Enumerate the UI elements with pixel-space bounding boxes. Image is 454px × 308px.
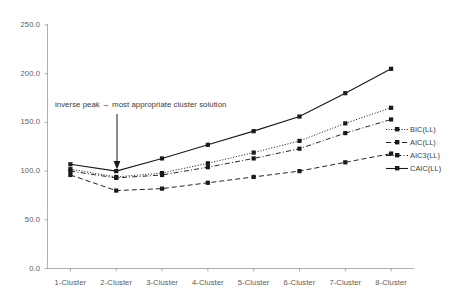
data-point-marker bbox=[68, 173, 72, 177]
data-point-marker bbox=[297, 139, 301, 143]
data-point-marker bbox=[206, 181, 210, 185]
x-tick-label: 1-Cluster bbox=[46, 278, 94, 287]
y-tick-label: 250.0 bbox=[4, 20, 40, 29]
legend-label-aic3: AIC3(LL) bbox=[408, 151, 440, 160]
legend-label-bic: BIC(LL) bbox=[408, 125, 436, 134]
data-point-marker bbox=[114, 176, 118, 180]
y-tick-label: 100.0 bbox=[4, 166, 40, 175]
data-point-marker bbox=[389, 106, 393, 110]
data-point-marker bbox=[343, 91, 347, 95]
x-tick-label: 2-Cluster bbox=[92, 278, 140, 287]
chart-legend: BIC(LL) AIC(LL) AIC3(LL) bbox=[386, 123, 452, 175]
data-point-marker bbox=[389, 67, 393, 71]
data-point-marker bbox=[343, 121, 347, 125]
legend-item-caic[interactable]: CAIC(LL) bbox=[386, 162, 452, 175]
x-tick-label: 3-Cluster bbox=[138, 278, 186, 287]
y-tick-label: 50.0 bbox=[4, 215, 40, 224]
data-point-marker bbox=[206, 161, 210, 165]
data-point-marker bbox=[160, 156, 164, 160]
data-point-marker bbox=[114, 188, 118, 192]
data-point-marker bbox=[160, 173, 164, 177]
legend-label-aic: AIC(LL) bbox=[408, 138, 436, 147]
data-point-marker bbox=[114, 169, 118, 173]
legend-swatch-dashed-icon bbox=[386, 137, 408, 148]
data-point-marker bbox=[297, 114, 301, 118]
legend-swatch-dotted-icon bbox=[386, 124, 408, 135]
data-point-marker bbox=[160, 187, 164, 191]
data-point-marker bbox=[68, 162, 72, 166]
annotation-arrow bbox=[114, 114, 121, 170]
x-tick-label: 8-Cluster bbox=[367, 278, 415, 287]
data-point-marker bbox=[252, 156, 256, 160]
legend-item-aic3[interactable]: AIC3(LL) bbox=[386, 149, 452, 162]
legend-item-bic[interactable]: BIC(LL) bbox=[386, 123, 452, 136]
y-tick-label: 200.0 bbox=[4, 69, 40, 78]
y-tick-label: 150.0 bbox=[4, 117, 40, 126]
data-point-marker bbox=[252, 150, 256, 154]
x-tick-label: 6-Cluster bbox=[275, 278, 323, 287]
data-point-marker bbox=[343, 131, 347, 135]
data-point-marker bbox=[343, 160, 347, 164]
data-point-marker bbox=[252, 175, 256, 179]
x-tick-label: 4-Cluster bbox=[184, 278, 232, 287]
y-tick-label: 0.0 bbox=[4, 264, 40, 273]
data-point-marker bbox=[206, 165, 210, 169]
data-point-marker bbox=[252, 129, 256, 133]
data-point-marker bbox=[206, 143, 210, 147]
legend-swatch-dashdot-icon bbox=[386, 150, 408, 161]
chart-container: 0.050.0100.0150.0200.0250.0 1-Cluster2-C… bbox=[0, 0, 454, 308]
x-axis-ticks bbox=[70, 269, 391, 272]
x-tick-label: 7-Cluster bbox=[321, 278, 369, 287]
data-point-marker bbox=[68, 169, 72, 173]
legend-swatch-solid-icon bbox=[386, 163, 408, 174]
data-point-marker bbox=[297, 147, 301, 151]
data-point-marker bbox=[389, 117, 393, 121]
x-tick-label: 5-Cluster bbox=[230, 278, 278, 287]
legend-item-aic[interactable]: AIC(LL) bbox=[386, 136, 452, 149]
legend-label-caic: CAIC(LL) bbox=[408, 164, 441, 173]
data-point-marker bbox=[297, 169, 301, 173]
y-axis-ticks bbox=[45, 25, 48, 269]
annotation-text: inverse peak → most appropriate cluster … bbox=[55, 100, 226, 109]
